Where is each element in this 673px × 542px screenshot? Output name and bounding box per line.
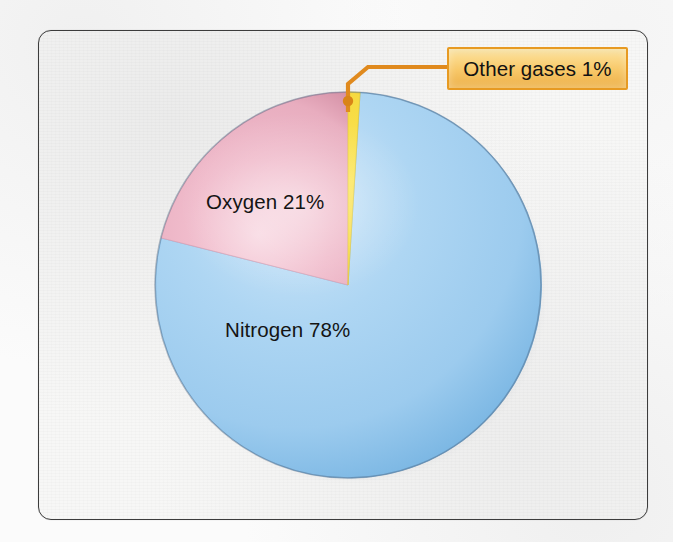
page-canvas: Oxygen 21% Nitrogen 78% Other gases 1% <box>0 0 673 542</box>
slice-label-oxygen: Oxygen 21% <box>206 190 324 214</box>
callout-label-other-gases: Other gases 1% <box>463 57 611 81</box>
figure-frame <box>38 30 648 520</box>
slice-label-nitrogen: Nitrogen 78% <box>225 318 350 342</box>
callout-box-other-gases: Other gases 1% <box>447 47 628 90</box>
